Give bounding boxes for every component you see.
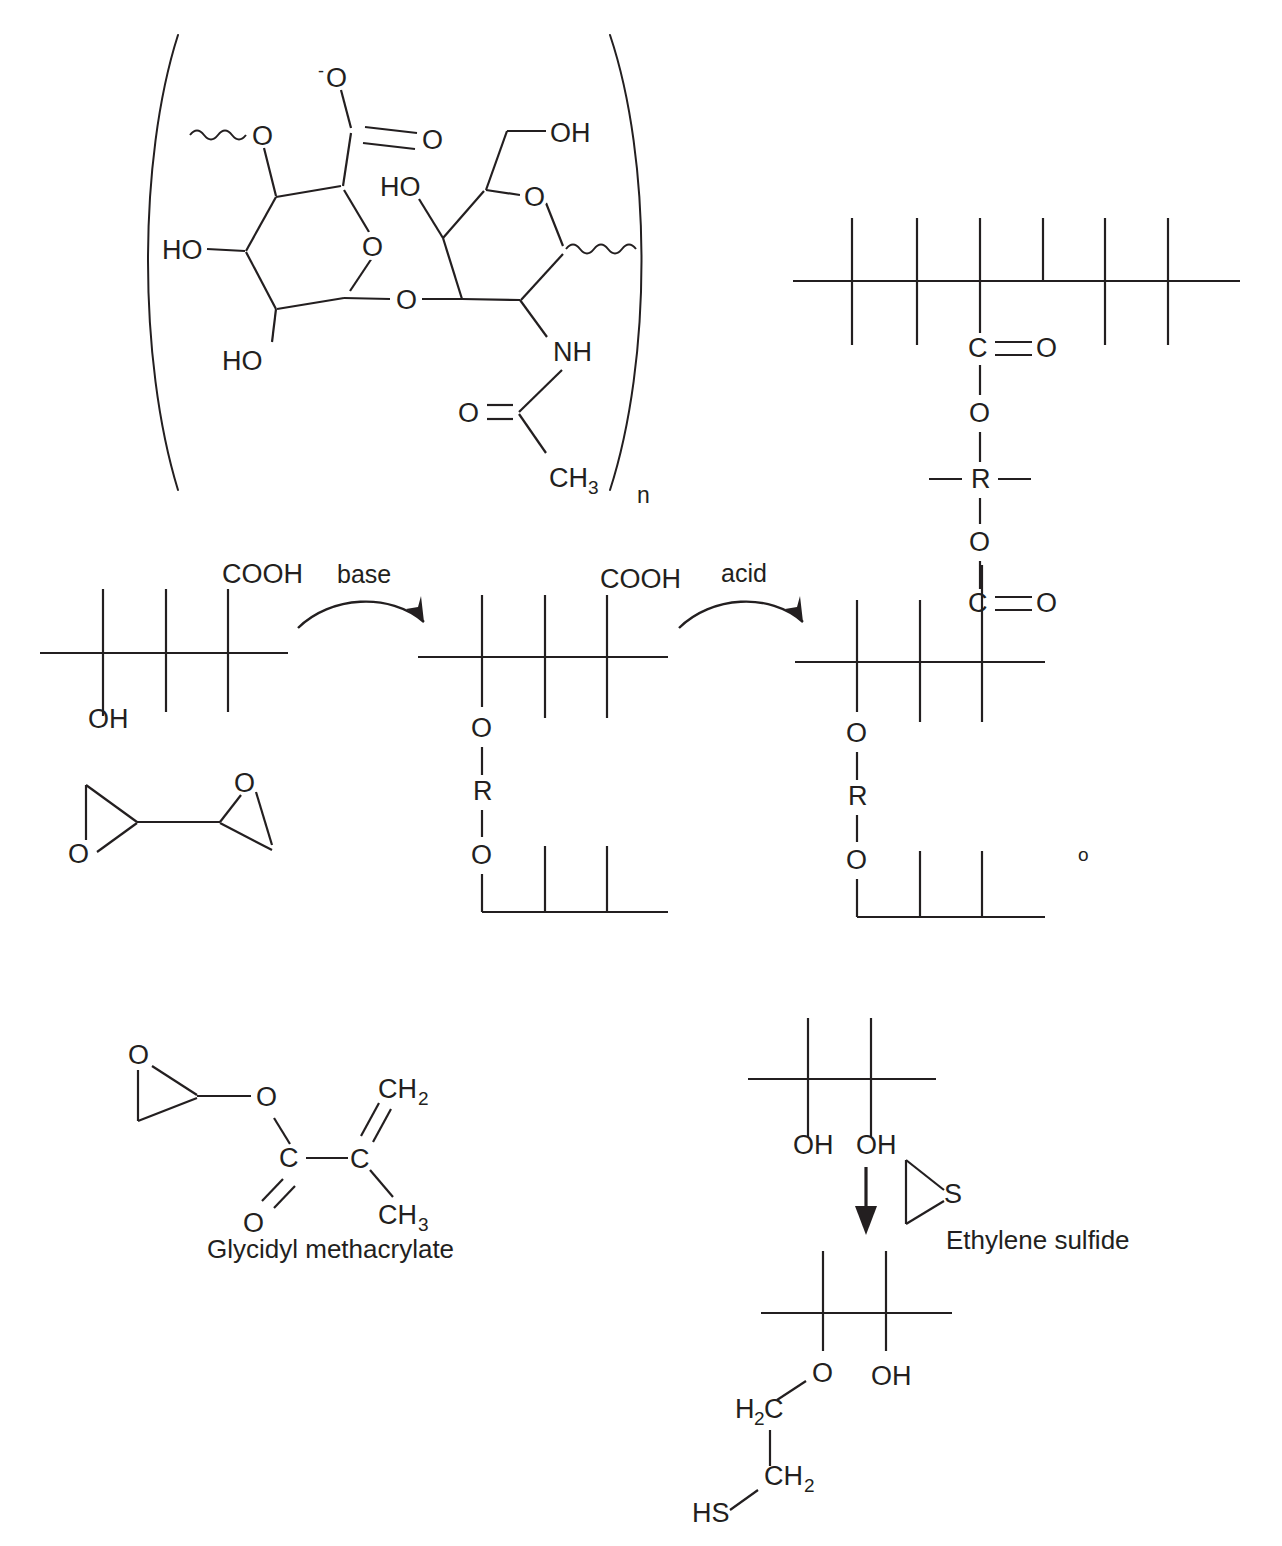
ha-acetyl-methyl-sub: 3 xyxy=(588,477,599,498)
gma-epoxide-edge-bottom xyxy=(138,1098,197,1121)
gma-methyl-label: CH xyxy=(378,1200,417,1230)
es-reaction-arrow-head xyxy=(855,1206,877,1235)
rx3-ester-o-lower: O xyxy=(846,845,867,875)
gma-methyl-sub: 3 xyxy=(418,1214,429,1235)
gma-carbonyl-carbon: C xyxy=(279,1143,299,1173)
ha-ring1-bond-c2-o xyxy=(344,190,369,232)
rx3-spacer-label: R xyxy=(848,781,868,811)
ha-ring2-bond-c3-c4 xyxy=(443,238,462,299)
ha-carboxyl-bond-c6-ominus xyxy=(341,90,351,128)
diepoxide-left-edge-top xyxy=(86,785,137,822)
ha-c5-oh-bond xyxy=(272,309,276,342)
es-reactant-oh-right: OH xyxy=(856,1130,897,1160)
cp-upper-carbonyl-carbon: C xyxy=(968,333,988,363)
gma-bond-esterO-to-carbonylC xyxy=(274,1118,290,1144)
diepoxide-right-edge-top xyxy=(220,795,241,822)
gma-methylene-sub: 2 xyxy=(418,1088,429,1109)
ha-c4-hydroxyl-label: HO xyxy=(162,235,203,265)
crosslinked-polymer-structure: C O O R O C O xyxy=(793,218,1240,618)
ha-c6-bond-up xyxy=(486,131,507,190)
reaction-arrow-acid: acid xyxy=(679,559,803,628)
ha-carboxylate-oxide-label: O xyxy=(326,63,347,93)
ha-c3-oxygen-label: O xyxy=(252,121,273,151)
ha-c3-o-bond xyxy=(264,148,276,196)
gma-vinyl-double-a xyxy=(361,1103,379,1136)
ha-carboxyl-bond-c2-c6 xyxy=(343,133,351,186)
acid-arrow-head xyxy=(785,596,803,622)
chemistry-figure-canvas: O - O O O HO HO O xyxy=(0,0,1282,1546)
ha-c5-hydroxyl-label: HO xyxy=(222,346,263,376)
ha-ring2-bond-c1-c2 xyxy=(521,254,563,300)
cp-lower-carbonyl-carbon: C xyxy=(968,588,988,618)
ha-ring1-bond-o-c1 xyxy=(350,258,372,291)
ha-amide-nitrogen-label: NH xyxy=(553,337,592,367)
ha-glycosidic-oxygen-label: O xyxy=(396,285,417,315)
ha-c2prime-n-bond xyxy=(520,300,547,337)
ha-ring1-bond-c3-c2 xyxy=(276,186,341,197)
glycidyl-methacrylate-label: Glycidyl methacrylate xyxy=(207,1234,454,1264)
rx2-ether-o-upper: O xyxy=(471,713,492,743)
gma-ester-oxygen: O xyxy=(256,1082,277,1112)
ha-c4prime-oh-bond xyxy=(419,199,443,238)
hyaluronic-acid-structure: O - O O O HO HO O xyxy=(148,35,650,508)
es-product-methylene-bottom-sub: 2 xyxy=(804,1475,815,1496)
ha-wavy-right-icon xyxy=(566,245,636,254)
rx2-spacer-label: R xyxy=(473,776,493,806)
ha-glycosidic-bond-left xyxy=(344,298,390,299)
es-product-methylene-bottom: CH xyxy=(764,1461,803,1491)
base-label: base xyxy=(337,560,391,588)
ethylene-sulfide-reaction: OH OH S Ethylene sulfide OH O H 2 C xyxy=(692,1018,1130,1528)
cp-spacer-label: R xyxy=(971,464,991,494)
gma-epoxide-oxygen: O xyxy=(128,1040,149,1070)
cp-upper-carbonyl-oxygen: O xyxy=(1036,333,1057,363)
ha-repeat-subscript: n xyxy=(637,482,650,508)
ha-ring1-bond-c5-c4 xyxy=(246,252,276,309)
diepoxide-right-edge-bottom xyxy=(220,823,272,850)
structures-svg: O - O O O HO HO O xyxy=(0,0,1282,1546)
ha-ring2-bond-o-c1 xyxy=(546,203,563,246)
acid-label: acid xyxy=(721,559,767,587)
es-product-methylene-top-sub: 2 xyxy=(754,1408,765,1429)
scheme-intermediate-polymer: COOH O R O xyxy=(418,564,681,912)
ha-carbonyl-methyl-bond xyxy=(519,414,546,453)
ha-ring1-oxygen-label: O xyxy=(362,232,383,262)
base-arrow-path xyxy=(298,602,424,628)
es-reagent-edge-bottom xyxy=(906,1201,944,1224)
ha-ring1-bond-c4-c3 xyxy=(246,197,276,251)
es-reactant-oh-left: OH xyxy=(793,1130,834,1160)
cp-lower-ester-oxygen: O xyxy=(969,527,990,557)
rx1-oh-label: OH xyxy=(88,704,129,734)
ha-ring2-bond-c5-o xyxy=(486,190,520,195)
es-product-thiol: HS xyxy=(692,1498,730,1528)
diepoxide-left-oxygen: O xyxy=(68,839,89,869)
gma-carbonyl-double-b xyxy=(274,1186,295,1208)
gma-bond-vinyl-to-methyl xyxy=(370,1170,393,1197)
es-product-methylene-top-tail: C xyxy=(764,1394,784,1424)
es-product-ether-oxygen: O xyxy=(812,1358,833,1388)
diepoxide-right-edge-side xyxy=(256,792,272,845)
rx1-cooh-label: COOH xyxy=(222,559,303,589)
es-reagent-sulfur: S xyxy=(944,1179,962,1209)
ha-acetyl-methyl-label: CH xyxy=(549,463,588,493)
ha-ring1-bond-c1-c5 xyxy=(277,298,344,309)
ha-carboxyl-double-upper xyxy=(365,127,417,133)
ha-carboxylate-charge-label: - xyxy=(318,61,324,81)
diepoxide-left-edge-bottom xyxy=(97,823,137,852)
cp-lower-carbonyl-oxygen: O xyxy=(1036,588,1057,618)
ha-ring2-bond-c2-c3 xyxy=(462,299,520,300)
gma-vinyl-carbon: C xyxy=(350,1144,370,1174)
glycidyl-methacrylate-structure: O O C O C CH 2 CH 3 Glycidyl methacrylat… xyxy=(128,1040,454,1264)
rx3-ester-o-upper: O xyxy=(846,718,867,748)
rx2-ether-o-lower: O xyxy=(471,840,492,870)
cp-upper-ester-oxygen: O xyxy=(969,398,990,428)
reaction-arrow-base: base xyxy=(298,560,424,628)
base-arrow-head xyxy=(406,596,424,622)
diepoxide-right-oxygen: O xyxy=(234,768,255,798)
ha-carboxyl-double-lower xyxy=(363,143,415,149)
ha-amide-oxygen-label: O xyxy=(458,398,479,428)
rx3-stray-marker: o xyxy=(1078,844,1089,865)
ha-wavy-left-icon xyxy=(190,131,246,140)
es-product-methylene-top: H xyxy=(735,1394,755,1424)
es-product-hydroxyl: OH xyxy=(871,1361,912,1391)
ha-primary-hydroxyl-label: OH xyxy=(550,118,591,148)
